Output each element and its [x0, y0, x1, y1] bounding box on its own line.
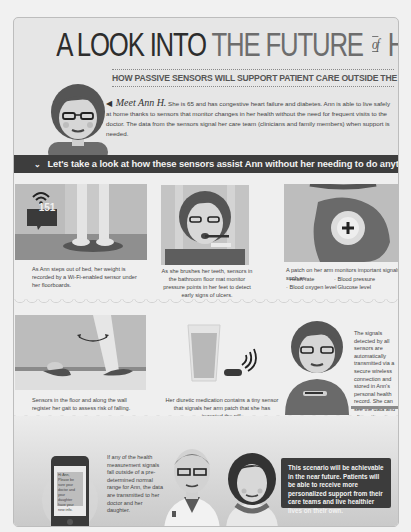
brushing-scene-illustration	[161, 185, 249, 265]
banner-text: Let's take a look at how these sensors a…	[47, 158, 399, 169]
title-dark: A LOOK INTO	[56, 26, 206, 63]
medication-scene-illustration	[174, 323, 274, 383]
title-light-1: THE FUTURE	[211, 26, 362, 63]
page-title: A LOOK INTO THE FUTURE of HEALTH CARE	[56, 26, 356, 64]
patch-bullet-oxygen: · Blood oxygen level	[286, 283, 338, 291]
conclusion-text: This scenario will be achievable in the …	[288, 464, 384, 514]
accent-bar	[351, 406, 399, 409]
infographic-frame: A LOOK INTO THE FUTURE of HEALTH CARE HO…	[13, 17, 399, 527]
section-banner: ⌄ Let's take a look at how these sensors…	[14, 155, 398, 173]
ann-portrait-illustration	[42, 80, 114, 158]
arm-patch-scene-illustration	[284, 184, 399, 262]
scale-caption: As Ann steps out of bed, her weight is r…	[32, 265, 144, 289]
alert-caption: If any of the health measurement signals…	[107, 454, 163, 515]
scale-weight-readout: 151	[32, 202, 62, 216]
page-subtitle: HOW PASSIVE SENSORS WILL SUPPORT PATIENT…	[112, 69, 394, 87]
patch-bullet-blood-pressure: · Blood pressure	[334, 275, 394, 283]
patch-bullet-glucose: · Glucose level	[334, 283, 394, 291]
wavy-divider-1	[14, 299, 398, 305]
walking-scene-illustration	[15, 315, 146, 390]
wireless-signal-icon	[242, 349, 256, 371]
title-light-2: HEALTH CARE	[388, 26, 399, 63]
transmit-caption: The signals detected by all sensors are …	[354, 330, 399, 429]
care-team-illustration	[164, 443, 282, 527]
scale-scene-illustration	[15, 184, 147, 260]
conclusion-box: This scenario will be achievable in the …	[281, 458, 391, 508]
brushing-caption: As she brushes her teeth, sensors in the…	[159, 267, 255, 299]
intro-meet-label: Meet Ann H.	[116, 97, 167, 108]
intro-paragraph: ◀ Meet Ann H. She is 65 and has congesti…	[106, 98, 394, 139]
chevron-down-icon: ⌄	[34, 160, 41, 169]
patch-bullet-heart-rate: · Heart rate	[286, 275, 338, 283]
ann-phone-illustration	[281, 319, 353, 415]
phone-message-text: Hi Ann, Please be sure your doctor and y…	[58, 473, 80, 513]
walking-caption: Sensors in the floor and along the wall …	[32, 396, 142, 412]
arrow-left-icon: ◀	[106, 99, 112, 108]
title-of: of	[372, 36, 379, 52]
